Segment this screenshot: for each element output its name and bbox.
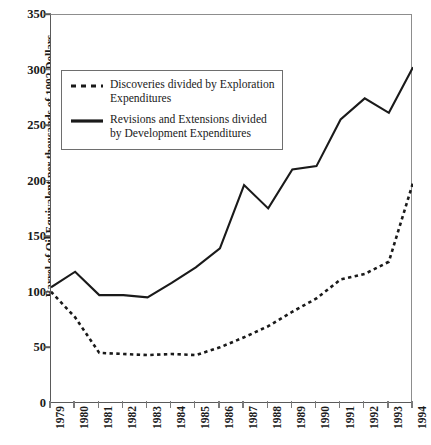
solid-line-sample-icon: [70, 113, 104, 129]
x-tick-mark: [267, 401, 268, 408]
legend-item-discoveries: Discoveries divided by Exploration Expen…: [68, 78, 276, 106]
x-tick-label: 1992: [369, 406, 381, 429]
legend-label-discoveries: Discoveries divided by Exploration Expen…: [110, 78, 276, 106]
x-tick-label: 1988: [272, 406, 284, 429]
x-tick-label: 1991: [345, 406, 357, 429]
x-tick-label: 1982: [127, 406, 139, 429]
x-tick-label: 1984: [176, 406, 188, 429]
x-tick-mark: [339, 401, 340, 408]
x-tick-label: 1994: [417, 406, 429, 429]
x-tick-label: 1979: [55, 406, 67, 429]
x-tick-label: 1985: [200, 406, 212, 429]
x-tick-label: 1987: [248, 406, 260, 429]
x-tick-label: 1981: [103, 406, 115, 429]
x-tick-mark: [122, 401, 123, 408]
x-tick-label: 1993: [393, 406, 405, 429]
x-tick-mark: [98, 401, 99, 408]
x-tick-mark: [218, 401, 219, 408]
x-axis-ticks: 1979198019811982198319841985198619871988…: [0, 0, 431, 445]
x-tick-label: 1989: [296, 406, 308, 429]
x-tick-mark: [146, 401, 147, 408]
legend-label-revisions-extensions: Revisions and Extensions divided by Deve…: [110, 113, 276, 141]
x-tick-label: 1980: [79, 406, 91, 429]
x-tick-mark: [315, 401, 316, 408]
x-tick-mark: [242, 401, 243, 408]
legend-item-revisions-extensions: Revisions and Extensions divided by Deve…: [68, 113, 276, 141]
x-tick-mark: [73, 401, 74, 408]
x-tick-mark: [291, 401, 292, 408]
x-tick-mark: [49, 401, 50, 408]
x-tick-label: 1983: [152, 406, 164, 429]
x-tick-label: 1986: [224, 406, 236, 429]
x-tick-mark: [411, 401, 412, 408]
x-tick-mark: [170, 401, 171, 408]
chart-legend: Discoveries divided by Exploration Expen…: [61, 70, 283, 150]
x-tick-mark: [194, 401, 195, 408]
x-tick-label: 1990: [320, 406, 332, 429]
x-tick-mark: [387, 401, 388, 408]
x-tick-mark: [363, 401, 364, 408]
line-chart: Barrel of Oil Equivalent per thousands o…: [0, 0, 431, 445]
dashed-line-sample-icon: [70, 78, 104, 94]
